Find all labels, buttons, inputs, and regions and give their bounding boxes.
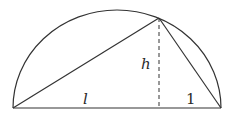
label-l: l — [83, 90, 88, 108]
semicircle-diagram: l h 1 — [0, 0, 229, 115]
label-h: h — [141, 55, 151, 73]
label-1: 1 — [186, 90, 196, 108]
